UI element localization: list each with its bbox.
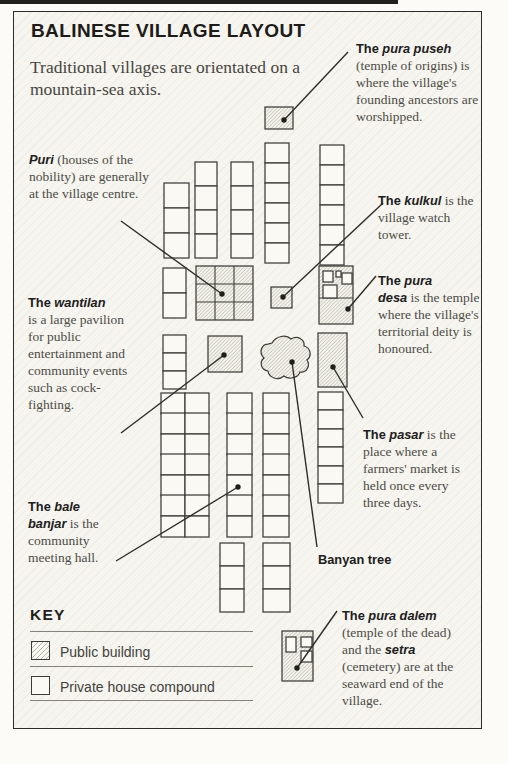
private-house-compound bbox=[318, 484, 343, 503]
key-label-public: Public building bbox=[60, 644, 150, 660]
annotation-text: pasar bbox=[389, 427, 423, 442]
private-house-compound bbox=[164, 208, 189, 233]
private-house-compound bbox=[195, 162, 217, 186]
key-divider bbox=[30, 666, 253, 667]
private-house-compound bbox=[265, 143, 289, 163]
private-house-compound bbox=[161, 434, 185, 455]
kulkul-leader-dot bbox=[280, 294, 285, 299]
private-house-compound bbox=[263, 454, 289, 475]
private-house-compound bbox=[195, 210, 217, 234]
private-house-compound bbox=[185, 393, 209, 414]
pura-desa-leader-dot bbox=[345, 306, 350, 311]
annotation-puri: Puri (houses of the nobility) are genera… bbox=[29, 151, 157, 202]
key-label-private: Private house compound bbox=[60, 679, 215, 695]
annotation-kulkul: The kulkul is the village watch tower. bbox=[378, 192, 476, 243]
private-house-compound bbox=[265, 223, 289, 243]
banyan-leader-dot bbox=[289, 359, 294, 364]
private-house-compound bbox=[185, 413, 209, 434]
annotation-wantilan: The wantilanis a large pavilion for publ… bbox=[28, 294, 134, 413]
puri-leader-dot bbox=[219, 291, 224, 296]
annotation-text: Puri bbox=[29, 152, 54, 167]
annotation-text: setra bbox=[385, 642, 416, 657]
private-house-compound bbox=[227, 413, 252, 434]
figure-subtitle: Traditional villages are orientated on a… bbox=[30, 56, 322, 100]
public-building-swatch bbox=[31, 641, 50, 660]
private-house-compound bbox=[263, 475, 289, 496]
annotation-text: The bbox=[356, 41, 382, 56]
private-house-compound bbox=[161, 454, 185, 475]
private-house-compound bbox=[320, 165, 344, 185]
pura-puseh-building bbox=[265, 107, 293, 129]
annotation-text: pura puseh bbox=[382, 41, 451, 56]
annotation-text: kulkul bbox=[404, 193, 441, 208]
private-house-compound bbox=[227, 516, 252, 537]
private-house-compound bbox=[263, 495, 289, 516]
wantilan-leader-dot bbox=[221, 352, 226, 357]
key-divider bbox=[30, 631, 253, 632]
balinese-village-layout-figure: BALINESE VILLAGE LAYOUT Traditional vill… bbox=[0, 0, 508, 764]
private-house-compound bbox=[227, 393, 252, 414]
annotation-text: The bbox=[28, 499, 54, 514]
annotation-text: The bbox=[28, 295, 54, 310]
private-house-compound bbox=[185, 475, 209, 496]
private-house-compound bbox=[164, 183, 189, 208]
pasar-leader-dot bbox=[330, 364, 335, 369]
private-house-compound bbox=[263, 589, 290, 612]
annotation-text: pura bbox=[404, 273, 432, 288]
annotation-text: The bbox=[378, 193, 404, 208]
bale-banjar-leader-dot bbox=[235, 484, 240, 489]
annotation-banyan-tree: Banyan tree bbox=[318, 551, 428, 568]
annotation-text: pura dalem bbox=[368, 608, 436, 623]
private-house-compound bbox=[185, 516, 209, 537]
private-house-compound bbox=[163, 353, 186, 371]
pura-desa-shrine bbox=[336, 271, 341, 277]
private-house-compound bbox=[318, 392, 343, 410]
private-house-compound bbox=[195, 234, 217, 258]
private-house-compound bbox=[265, 243, 289, 263]
pura-dalem-shrine bbox=[286, 637, 296, 652]
private-house-compound bbox=[185, 454, 209, 475]
private-house-compound bbox=[163, 335, 186, 353]
key-heading: KEY bbox=[30, 606, 65, 624]
pura-desa-shrine bbox=[342, 273, 352, 284]
private-house-compound bbox=[320, 145, 344, 165]
private-house-compound bbox=[227, 454, 252, 475]
private-house-compound bbox=[263, 566, 290, 589]
banyan-leader bbox=[292, 362, 317, 547]
private-house-compound bbox=[320, 205, 344, 225]
private-house-compound bbox=[320, 225, 344, 245]
private-house-compound bbox=[220, 543, 244, 566]
private-house-compound bbox=[227, 495, 252, 516]
annotation-text: (temple of origins) is where the village… bbox=[356, 58, 478, 124]
private-house-compound bbox=[265, 203, 289, 223]
annotation-text: desa bbox=[378, 290, 407, 305]
key-divider bbox=[30, 700, 253, 701]
annotation-text: The bbox=[363, 427, 389, 442]
private-house-compound bbox=[195, 186, 217, 210]
private-house-compound bbox=[161, 413, 185, 434]
annotation-pura-dalem: The pura dalem (temple of the dead) and … bbox=[342, 607, 466, 709]
private-house-swatch bbox=[31, 676, 50, 695]
private-house-compound bbox=[220, 589, 244, 612]
private-house-compound bbox=[163, 268, 186, 293]
private-house-compound bbox=[231, 234, 253, 258]
annotation-text: The bbox=[378, 273, 404, 288]
private-house-compound bbox=[231, 162, 253, 186]
private-house-compound bbox=[318, 410, 343, 429]
private-house-compound bbox=[161, 475, 185, 496]
banyan-tree-shape bbox=[261, 336, 310, 378]
private-house-compound bbox=[263, 543, 290, 566]
annotation-text: banjar bbox=[28, 516, 66, 531]
private-house-compound bbox=[161, 495, 185, 516]
private-house-compound bbox=[161, 393, 185, 414]
private-house-compound bbox=[185, 495, 209, 516]
annotation-bale-banjar: The balebanjar is the community meeting … bbox=[28, 498, 128, 566]
annotation-text: The bbox=[342, 608, 368, 623]
private-house-compound bbox=[318, 429, 343, 447]
private-house-compound bbox=[265, 163, 289, 183]
private-house-compound bbox=[265, 183, 289, 203]
private-house-compound bbox=[227, 434, 252, 455]
private-house-compound bbox=[318, 447, 343, 466]
private-house-compound bbox=[263, 413, 289, 434]
annotation-text: (cemetery) are at the seaward end of the… bbox=[342, 659, 453, 708]
